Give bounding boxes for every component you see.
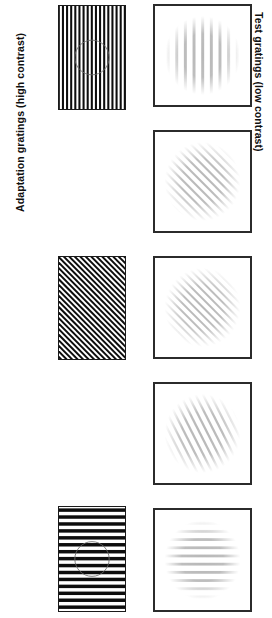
test-grating-vertical (153, 4, 252, 107)
grating-pattern (59, 257, 125, 359)
grating-pattern (155, 510, 250, 610)
square-wave-grating (59, 6, 125, 109)
adaptation-grating-vertical (58, 5, 126, 110)
test-column-label: Test gratings (low contrast) (253, 12, 265, 152)
low-contrast-grating (155, 510, 250, 610)
square-wave-grating (59, 507, 125, 611)
grating-pattern (59, 507, 125, 611)
grating-pattern (155, 384, 250, 483)
low-contrast-grating (155, 132, 250, 231)
grating-adaptation-figure: Adaptation gratings (high contrast) Test… (0, 0, 272, 618)
test-grating-diagonal-mid (153, 256, 252, 359)
square-wave-grating (59, 257, 125, 359)
test-grating-diagonal-steep (153, 130, 252, 233)
adaptation-grating-diagonal (58, 256, 126, 360)
adaptation-column-label: Adaptation gratings (high contrast) (14, 33, 26, 212)
test-grating-diagonal-shallow (153, 382, 252, 485)
low-contrast-grating (155, 258, 250, 357)
grating-pattern (59, 6, 125, 109)
grating-pattern (155, 6, 250, 105)
low-contrast-grating (155, 384, 250, 483)
test-grating-horizontal (153, 508, 252, 612)
grating-pattern (155, 258, 250, 357)
adaptation-grating-horizontal (58, 506, 126, 612)
grating-pattern (155, 132, 250, 231)
low-contrast-grating (155, 6, 250, 105)
